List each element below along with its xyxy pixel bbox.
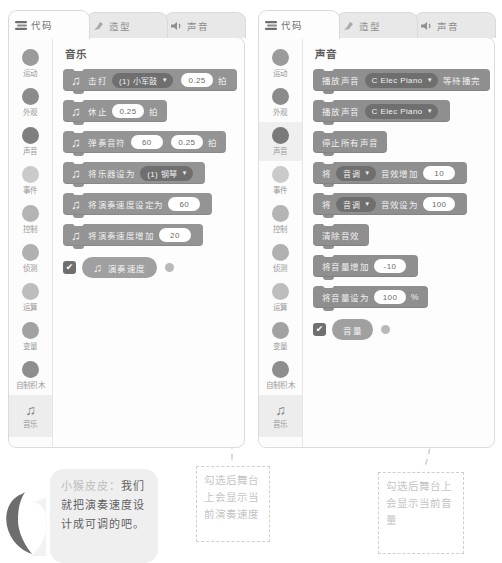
- category-events[interactable]: 事件: [9, 161, 52, 200]
- effect-delta-input[interactable]: 10: [423, 166, 455, 180]
- category-label: 自制积木: [16, 379, 45, 390]
- tab-costumes[interactable]: 造型: [86, 12, 168, 38]
- category-label: 变量: [23, 340, 37, 351]
- beats-input[interactable]: 0.25: [181, 73, 213, 87]
- category-label: 侦测: [273, 262, 287, 273]
- reporter-tempo[interactable]: ♫ 演奏速度: [82, 257, 157, 278]
- category-looks[interactable]: 外观: [259, 83, 302, 122]
- category-label: 运动: [273, 67, 287, 78]
- block-set-instrument[interactable]: ♫ 将乐器设为 (1) 钢琴 ▼: [63, 162, 205, 184]
- palette-title: 音乐: [65, 46, 244, 61]
- reporter-volume[interactable]: 音量: [332, 319, 373, 340]
- block-stop-all-sounds[interactable]: 停止所有声音: [313, 131, 387, 153]
- category-music[interactable]: ♫ 音乐: [259, 395, 302, 437]
- category-sound[interactable]: 声音: [9, 122, 52, 161]
- volume-delta-input[interactable]: -10: [374, 259, 406, 273]
- category-music[interactable]: ♫ 音乐: [9, 395, 52, 437]
- category-my-blocks[interactable]: 自制积木: [259, 356, 302, 395]
- block-text: 将演奏速度设定为: [87, 198, 164, 210]
- block-change-effect-by[interactable]: 将 音调 ▼ 音效增加 10: [313, 162, 467, 184]
- category-control[interactable]: 控制: [259, 200, 302, 239]
- effect-dropdown[interactable]: 音调 ▼: [336, 197, 375, 212]
- note-input[interactable]: 60: [131, 135, 163, 149]
- tab-costumes[interactable]: 造型: [336, 12, 418, 38]
- category-events[interactable]: 事件: [259, 161, 302, 200]
- editor-body-right: 运动 外观 声音 事件 控制 侦测: [258, 37, 495, 448]
- category-list-left: 运动 外观 声音 事件 控制 侦测: [9, 38, 53, 447]
- beats-input[interactable]: 0.25: [112, 104, 144, 118]
- scratch-editor-panel-right: 代码 造型 声音 运动 外观: [258, 8, 495, 448]
- category-operators[interactable]: 运算: [259, 278, 302, 317]
- block-text: 停止所有声音: [321, 136, 379, 148]
- tab-costumes-label: 造型: [359, 19, 380, 33]
- tempo-input[interactable]: 60: [168, 197, 200, 211]
- code-icon: [15, 21, 27, 30]
- block-palette-left[interactable]: 音乐 ♫ 击打 (1) 小军鼓 ▼ 0.25 拍 ♫ 休止 0.25 拍 ♫: [53, 38, 244, 447]
- category-label: 运算: [23, 301, 37, 312]
- effect-dropdown[interactable]: 音调 ▼: [336, 166, 375, 181]
- category-variables[interactable]: 变量: [259, 317, 302, 356]
- category-motion[interactable]: 运动: [259, 44, 302, 83]
- category-control[interactable]: 控制: [9, 200, 52, 239]
- callout-anchor: [165, 263, 174, 272]
- category-sound[interactable]: 声音: [259, 122, 302, 161]
- tempo-delta-input[interactable]: 20: [159, 228, 191, 242]
- tab-code[interactable]: 代码: [8, 10, 90, 39]
- category-dot: [272, 166, 289, 183]
- block-text: 将音量设为: [321, 291, 370, 303]
- category-label: 运算: [273, 301, 287, 312]
- block-palette-right[interactable]: 声音 播放声音 C Elec Piano ▼ 等待播完 播放声音 C Elec …: [303, 38, 494, 447]
- block-clear-effects[interactable]: 清除音效: [313, 224, 369, 246]
- tab-sounds-label: 声音: [437, 19, 458, 33]
- category-dot: [22, 166, 39, 183]
- category-variables[interactable]: 变量: [9, 317, 52, 356]
- block-change-tempo[interactable]: ♫ 将演奏速度增加 20: [63, 224, 203, 246]
- chevron-down-icon: ▼: [427, 108, 433, 114]
- block-set-tempo[interactable]: ♫ 将演奏速度设定为 60: [63, 193, 212, 215]
- block-start-sound[interactable]: 播放声音 C Elec Piano ▼: [313, 100, 450, 122]
- block-set-effect-to[interactable]: 将 音调 ▼ 音效设为 100: [313, 193, 467, 215]
- reporter-row-tempo: ✔ ♫ 演奏速度: [63, 257, 244, 278]
- block-text: 将乐器设为: [87, 167, 136, 179]
- category-sensing[interactable]: 侦测: [259, 239, 302, 278]
- block-text: 休止: [87, 105, 108, 117]
- tab-code-label: 代码: [31, 18, 52, 32]
- chevron-down-icon: ▼: [364, 201, 370, 207]
- block-change-volume-by[interactable]: 将音量增加 -10: [313, 255, 418, 277]
- drum-dropdown[interactable]: (1) 小军鼓 ▼: [112, 73, 173, 88]
- volume-input[interactable]: 100: [374, 290, 406, 304]
- block-text: 拍: [148, 105, 159, 117]
- speaker-name: 小猴皮皮：: [61, 480, 121, 493]
- sound-dropdown[interactable]: C Elec Piano ▼: [365, 104, 438, 119]
- tab-code[interactable]: 代码: [258, 10, 340, 39]
- category-my-blocks[interactable]: 自制积木: [9, 356, 52, 395]
- chevron-down-icon: ▼: [182, 170, 188, 176]
- music-note-icon: ♫: [25, 403, 36, 417]
- block-rest-for-beats[interactable]: ♫ 休止 0.25 拍: [63, 100, 167, 122]
- category-label: 侦测: [23, 262, 37, 273]
- beats-input[interactable]: 0.25: [171, 135, 203, 149]
- tab-sounds[interactable]: 声音: [164, 12, 246, 38]
- effect-value-input[interactable]: 100: [423, 197, 455, 211]
- tempo-checkbox[interactable]: ✔: [63, 261, 76, 274]
- category-motion[interactable]: 运动: [9, 44, 52, 83]
- block-text: 弹奏音符: [87, 136, 127, 148]
- tab-code-label: 代码: [281, 18, 302, 32]
- category-dot: [22, 361, 39, 378]
- category-looks[interactable]: 外观: [9, 83, 52, 122]
- block-play-sound-until-done[interactable]: 播放声音 C Elec Piano ▼ 等待播完: [313, 69, 490, 91]
- sound-dropdown[interactable]: C Elec Piano ▼: [365, 73, 438, 88]
- block-set-volume-to[interactable]: 将音量设为 100 %: [313, 286, 428, 308]
- chevron-down-icon: ▼: [162, 77, 168, 83]
- block-text: 将演奏速度增加: [87, 229, 155, 241]
- block-play-drum[interactable]: ♫ 击打 (1) 小军鼓 ▼ 0.25 拍: [63, 69, 237, 91]
- category-label: 声音: [23, 145, 37, 156]
- volume-checkbox[interactable]: ✔: [313, 323, 326, 336]
- tab-bar-right: 代码 造型 声音: [258, 8, 495, 38]
- instrument-dropdown[interactable]: (1) 钢琴 ▼: [140, 166, 193, 181]
- reporter-row-volume: ✔ 音量: [313, 319, 494, 340]
- category-sensing[interactable]: 侦测: [9, 239, 52, 278]
- tab-sounds[interactable]: 声音: [414, 12, 496, 38]
- block-play-note[interactable]: ♫ 弹奏音符 60 0.25 拍: [63, 131, 226, 153]
- category-operators[interactable]: 运算: [9, 278, 52, 317]
